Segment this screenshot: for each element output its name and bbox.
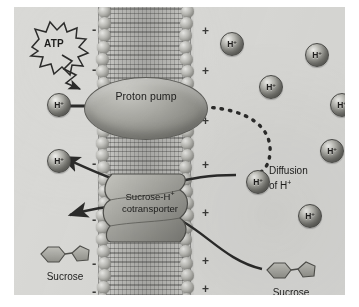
h-ion-cotransport-in[interactable]: H+ [47, 149, 71, 173]
h-ion-outside-3[interactable]: H+ [259, 75, 283, 99]
h-ion-label: H+ [337, 99, 345, 110]
h-ion-outside-6[interactable]: H+ [298, 204, 322, 228]
glucose-hexagon [267, 263, 291, 278]
h-ion-label: H+ [253, 176, 263, 187]
atp-label: ATP [26, 38, 82, 49]
h-ion-pumped-in[interactable]: H+ [47, 93, 71, 117]
sucrose-label: Sucrose [254, 287, 328, 295]
h-ion-label: H+ [327, 145, 337, 156]
atp-starburst-icon [26, 19, 106, 101]
cotransporter-label-line1: Sucrose-H [126, 191, 171, 202]
illustration-panel: -------+++++++ Proto [14, 7, 345, 295]
sucrose-apoplast[interactable]: Sucrose [260, 261, 322, 287]
cotransporter-label-sup: + [170, 190, 174, 197]
diffusion-label-line1: Diffusion [269, 165, 308, 176]
h-ion-label: H+ [227, 38, 237, 49]
h-ion-outside-2[interactable]: H+ [305, 43, 329, 67]
atp-energy-source[interactable]: ATP [26, 19, 106, 101]
sucrose-shape [260, 261, 322, 287]
h-ion-label: H+ [266, 81, 276, 92]
h-ion-label: H+ [54, 99, 64, 110]
diffusion-of-h-label: Diffusion of H+ [269, 165, 335, 192]
glycosidic-bond [65, 253, 72, 254]
fructose-pentagon [298, 262, 315, 277]
sucrose-h-cotransporter-protein[interactable]: Sucrose-H+ cotransporter [98, 172, 194, 244]
h-ion-label: H+ [305, 210, 315, 221]
sucrose-shape [34, 245, 96, 271]
h-ion-label: H+ [54, 155, 64, 166]
cotransporter-label-line2: cotransporter [122, 203, 178, 214]
h-ion-outside-5[interactable]: H+ [320, 139, 344, 163]
fructose-pentagon [72, 246, 89, 261]
h-ion-outside-1[interactable]: H+ [220, 32, 244, 56]
cotransporter-label: Sucrose-H+ cotransporter [96, 188, 204, 215]
membrane-transport-diagram: -------+++++++ Proto [0, 0, 359, 307]
diffusion-label-line2: of H [269, 180, 287, 191]
glucose-hexagon [41, 247, 65, 262]
glycosidic-bond [291, 269, 298, 270]
h-diffusion-arrow [204, 107, 270, 175]
sucrose-label: Sucrose [28, 271, 102, 282]
h-ion-label: H+ [312, 49, 322, 60]
h-ion-diffusing[interactable]: H+ [246, 170, 270, 194]
diffusion-label-sup: + [287, 179, 291, 186]
sucrose-cytoplasm[interactable]: Sucrose [34, 245, 96, 271]
